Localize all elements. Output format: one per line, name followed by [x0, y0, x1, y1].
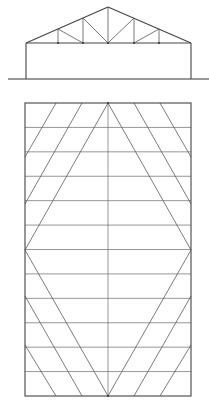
diagonal-brace: [160, 345, 191, 396]
diagonal-brace: [134, 296, 191, 396]
diagram-canvas: [0, 0, 209, 412]
diagonal-brace: [134, 103, 191, 204]
ridge-joint: [107, 395, 109, 397]
diagonal-brace: [160, 103, 191, 157]
diagonal-brace: [25, 345, 56, 396]
roof-plan: [0, 0, 209, 412]
diagonal-brace: [25, 103, 56, 157]
diagonal-brace: [25, 296, 82, 396]
diagonal-brace: [25, 103, 82, 204]
ridge-joint: [107, 102, 109, 104]
